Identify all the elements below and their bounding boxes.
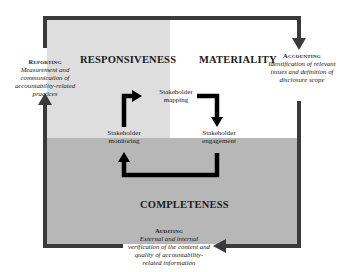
engagement-arrow-icon [211, 117, 223, 127]
node-line: engagement [195, 137, 243, 145]
stakeholder-mapping-node: Stakeholder mapping [152, 88, 200, 104]
mapping-to-engagement-line [197, 96, 217, 120]
auditing-desc-line: verification of the content and [120, 243, 218, 251]
node-line: Stakeholder [195, 129, 243, 137]
accounting-desc-line: issues and definition of [262, 68, 342, 76]
frame-top-segment [45, 18, 299, 48]
reporting-desc-line: practices [6, 90, 84, 98]
auditing-desc-line: External and internal [120, 235, 218, 243]
frame-right-segment [224, 101, 299, 246]
accounting-desc-line: disclosure scope [262, 76, 342, 84]
auditing-desc-line: quality of accountability- [120, 251, 218, 259]
node-line: Stakeholder [152, 88, 200, 96]
monitoring-arrow-icon [118, 152, 130, 162]
mapping-arrow-icon [132, 90, 142, 102]
reporting-title: Reporting [6, 58, 84, 66]
reporting-desc-line: accountability-related [6, 82, 84, 90]
reporting-desc-line: communication of [6, 74, 84, 82]
reporting-desc-line: Measurement and [6, 66, 84, 74]
auditing-desc-line: related information [120, 259, 218, 267]
auditing-stage: Auditing External and internal verificat… [120, 227, 218, 267]
stakeholder-monitoring-node: Stakeholder monitoring [100, 129, 148, 145]
accounting-stage: Accounting Identification of relevant is… [262, 52, 342, 84]
reporting-stage: Reporting Measurement and communication … [6, 58, 84, 98]
accounting-desc-line: Identification of relevant [262, 60, 342, 68]
node-line: mapping [152, 96, 200, 104]
accounting-arrow-icon [292, 38, 306, 50]
engagement-to-monitoring-line [124, 153, 217, 175]
responsiveness-label: RESPONSIVENESS [80, 54, 176, 65]
node-line: Stakeholder [100, 129, 148, 137]
frame-left-segment [45, 103, 123, 246]
completeness-label: COMPLETENESS [140, 199, 229, 210]
stakeholder-engagement-node: Stakeholder engagement [195, 129, 243, 145]
accounting-title: Accounting [262, 52, 342, 60]
auditing-title: Auditing [120, 227, 218, 235]
node-line: monitoring [100, 137, 148, 145]
